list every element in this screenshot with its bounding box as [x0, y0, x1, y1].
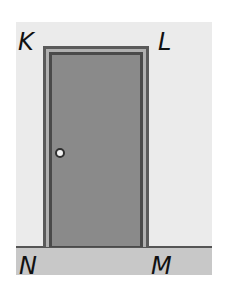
vertex-label-l: L: [158, 30, 171, 54]
vertex-label-n: N: [19, 254, 37, 278]
door-knob-icon: [55, 148, 65, 158]
floor: [16, 246, 212, 275]
door-panel: [52, 55, 140, 246]
vertex-label-k: K: [18, 30, 34, 54]
vertex-label-m: M: [151, 254, 172, 278]
